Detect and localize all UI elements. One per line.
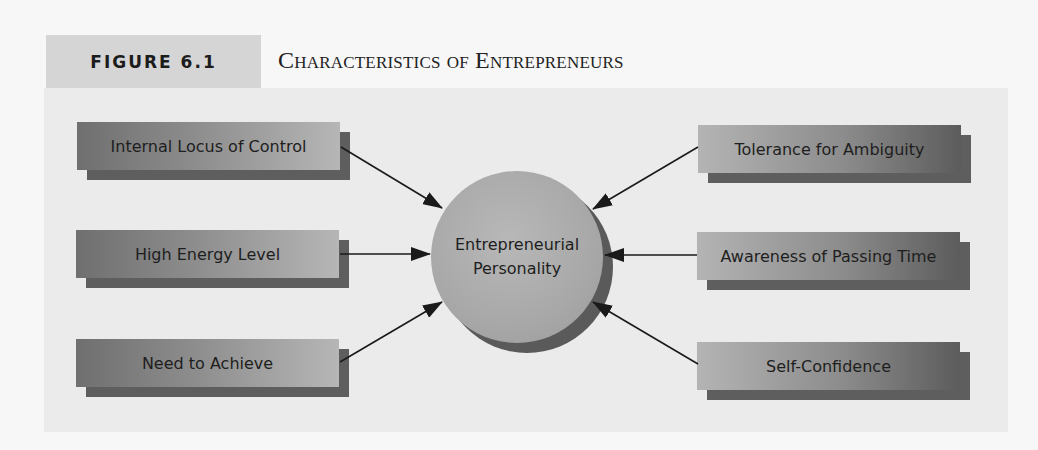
trait-internal-locus-of-control: Internal Locus of Control xyxy=(77,122,351,180)
trait-box: Internal Locus of Control xyxy=(77,122,340,170)
figure-title: Characteristics of Entrepreneurs xyxy=(278,47,624,74)
center-label-line2: Personality xyxy=(473,257,561,281)
trait-box: Self-Confidence xyxy=(697,342,960,390)
trait-high-energy-level: High Energy Level xyxy=(76,230,350,288)
trait-box: High Energy Level xyxy=(76,230,339,278)
trait-tolerance-for-ambiguity: Tolerance for Ambiguity xyxy=(698,125,972,183)
trait-box: Awareness of Passing Time xyxy=(697,232,960,280)
trait-awareness-of-passing-time: Awareness of Passing Time xyxy=(697,232,971,290)
trait-box: Need to Achieve xyxy=(76,339,339,387)
trait-self-confidence: Self-Confidence xyxy=(697,342,971,400)
trait-need-to-achieve: Need to Achieve xyxy=(76,339,350,397)
figure: FIGURE 6.1 Characteristics of Entreprene… xyxy=(0,0,1038,450)
entrepreneurial-personality-node: Entrepreneurial Personality xyxy=(431,171,603,343)
center-label-line1: Entrepreneurial xyxy=(455,233,579,257)
trait-box: Tolerance for Ambiguity xyxy=(698,125,961,173)
figure-number-label: FIGURE 6.1 xyxy=(46,35,261,88)
